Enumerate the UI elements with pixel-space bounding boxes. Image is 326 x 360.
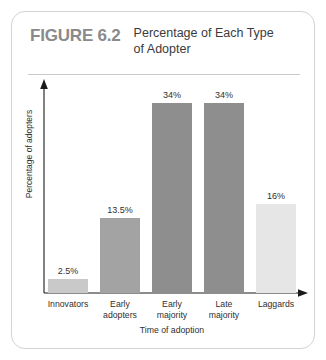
bar-rect: [256, 204, 296, 293]
x-tick-laggards: Laggards: [253, 299, 299, 320]
figure-title: Percentage of Each Type of Adopter: [134, 26, 284, 57]
x-tick-line: majority: [209, 310, 239, 320]
bar-rect: [152, 103, 192, 293]
x-axis-tick-labels: Innovators Earlyadopters Earlymajority L…: [48, 299, 296, 320]
bar-chart: Percentage of adopters 2.5% 13.5% 34%: [12, 75, 314, 349]
bar-innovators: 2.5%: [48, 81, 88, 293]
x-tick-line: Early: [110, 299, 130, 309]
x-tick-innovators: Innovators: [45, 299, 91, 320]
bar-value-label: 34%: [215, 90, 233, 100]
x-tick-line: Late: [216, 299, 233, 309]
bar-late-majority: 34%: [204, 81, 244, 293]
x-tick-line: Early: [162, 299, 182, 309]
x-axis-arrowhead: [298, 289, 308, 297]
x-tick-line: majority: [157, 310, 187, 320]
bar-rect: [100, 218, 140, 293]
x-tick-line: Laggards: [258, 299, 294, 309]
bar-laggards: 16%: [256, 81, 296, 293]
bar-early-majority: 34%: [152, 81, 192, 293]
x-tick-early-adopters: Earlyadopters: [97, 299, 143, 320]
y-axis-arrowhead: [40, 79, 48, 89]
bar-value-label: 2.5%: [58, 266, 79, 276]
x-tick-late-majority: Latemajority: [201, 299, 247, 320]
bar-value-label: 16%: [267, 191, 285, 201]
x-tick-line: adopters: [103, 310, 137, 320]
figure-number-label: FIGURE 6.2: [30, 26, 121, 45]
bar-value-label: 13.5%: [107, 205, 133, 215]
bar-rect: [48, 279, 88, 293]
bar-early-adopters: 13.5%: [100, 81, 140, 293]
figure-card: FIGURE 6.2 Percentage of Each Type of Ad…: [11, 11, 315, 349]
bar-rect: [204, 103, 244, 293]
x-tick-early-majority: Earlymajority: [149, 299, 195, 320]
bar-group: 2.5% 13.5% 34% 34% 16%: [48, 81, 296, 293]
x-axis-title: Time of adoption: [48, 325, 296, 335]
figure-header: FIGURE 6.2 Percentage of Each Type of Ad…: [12, 12, 314, 70]
bar-value-label: 34%: [163, 90, 181, 100]
x-tick-line: Innovators: [48, 299, 89, 309]
